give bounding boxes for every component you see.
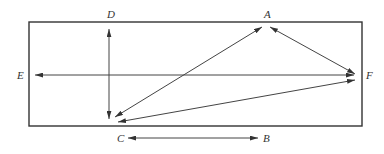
point-label-e: E — [16, 69, 24, 81]
point-label-a: A — [263, 8, 271, 20]
arrow-a-c — [115, 27, 262, 117]
frame-rectangle — [29, 22, 362, 126]
vector-diagram: ABCDEF — [0, 0, 384, 154]
point-label-c: C — [117, 132, 125, 144]
point-label-b: B — [263, 132, 270, 144]
arrows-group — [35, 27, 355, 138]
point-label-d: D — [106, 8, 115, 20]
labels-group: ABCDEF — [16, 8, 373, 144]
point-label-f: F — [365, 69, 373, 81]
arrow-f-c — [118, 80, 355, 122]
arrow-a-f — [270, 27, 355, 74]
